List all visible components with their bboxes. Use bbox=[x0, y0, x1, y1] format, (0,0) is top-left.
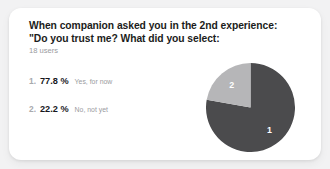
title-line-2: "Do you trust me? What did you select: bbox=[29, 33, 297, 46]
legend: 1. 77.8 % Yes, for now 2. 22.2 % No, not… bbox=[29, 76, 189, 132]
screenshot-root: When companion asked you in the 2nd expe… bbox=[0, 0, 330, 169]
legend-percent: 22.2 % bbox=[40, 104, 69, 114]
pie-slice-label-1: 1 bbox=[267, 125, 272, 135]
legend-label: Yes, for now bbox=[75, 78, 113, 85]
page-title: When companion asked you in the 2nd expe… bbox=[29, 20, 297, 45]
legend-label: No, not yet bbox=[75, 106, 108, 113]
title-line-1: When companion asked you in the 2nd expe… bbox=[29, 20, 297, 33]
list-item: 1. 77.8 % Yes, for now bbox=[29, 76, 189, 90]
respondent-count: 18 users bbox=[29, 46, 58, 56]
legend-percent: 77.8 % bbox=[40, 76, 69, 86]
card-content: When companion asked you in the 2nd expe… bbox=[9, 8, 321, 160]
list-item: 2. 22.2 % No, not yet bbox=[29, 104, 189, 118]
pie-chart: 12 bbox=[206, 63, 295, 152]
legend-rank: 1. bbox=[29, 76, 40, 86]
pie-chart-svg: 12 bbox=[206, 63, 295, 152]
legend-rank: 2. bbox=[29, 104, 40, 114]
survey-result-card: When companion asked you in the 2nd expe… bbox=[9, 8, 321, 160]
pie-slice-label-2: 2 bbox=[229, 80, 234, 90]
